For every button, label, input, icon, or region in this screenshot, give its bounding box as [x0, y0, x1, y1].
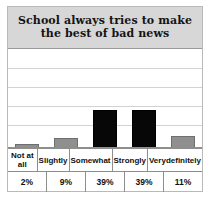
value-label-somewhat: 39%: [86, 172, 125, 192]
bar-series: [8, 49, 202, 148]
bar-somewhat: [93, 110, 117, 148]
bar-cell: [163, 49, 202, 148]
chart-title-line-2: the best of bad news: [41, 27, 170, 40]
value-label-slightly: 9%: [47, 172, 86, 192]
chart-title: School always tries to make the best of …: [18, 15, 192, 40]
category-label-very-definitely: Very definitely: [148, 149, 202, 171]
bar-cell: [86, 49, 125, 148]
category-label-somewhat: Somewhat: [70, 149, 113, 171]
chart-title-line-1: School always tries to make: [18, 14, 192, 27]
bar-cell: [8, 49, 47, 148]
category-label-strongly: Strongly: [113, 149, 148, 171]
plot-area: [8, 49, 202, 148]
value-label-strongly: 39%: [125, 172, 164, 192]
category-label-line-1: Very: [149, 156, 166, 165]
category-label-line-2: definitely: [166, 156, 201, 165]
chart-figure: School always tries to make the best of …: [7, 6, 203, 192]
axis-baseline: [8, 147, 202, 148]
chart-title-band: School always tries to make the best of …: [8, 7, 202, 49]
category-label-not-at-all: Not at all: [8, 149, 38, 171]
category-label-slightly: Slightly: [38, 149, 70, 171]
bar-cell: [124, 49, 163, 148]
value-label-not-at-all: 2%: [8, 172, 47, 192]
bar-cell: [47, 49, 86, 148]
value-label-row: 2% 9% 39% 39% 11%: [8, 171, 202, 192]
value-label-very-definitely: 11%: [164, 172, 202, 192]
bar-strongly: [132, 110, 156, 148]
category-label-row: Not at all Slightly Somewhat Strongly Ve…: [8, 148, 202, 171]
